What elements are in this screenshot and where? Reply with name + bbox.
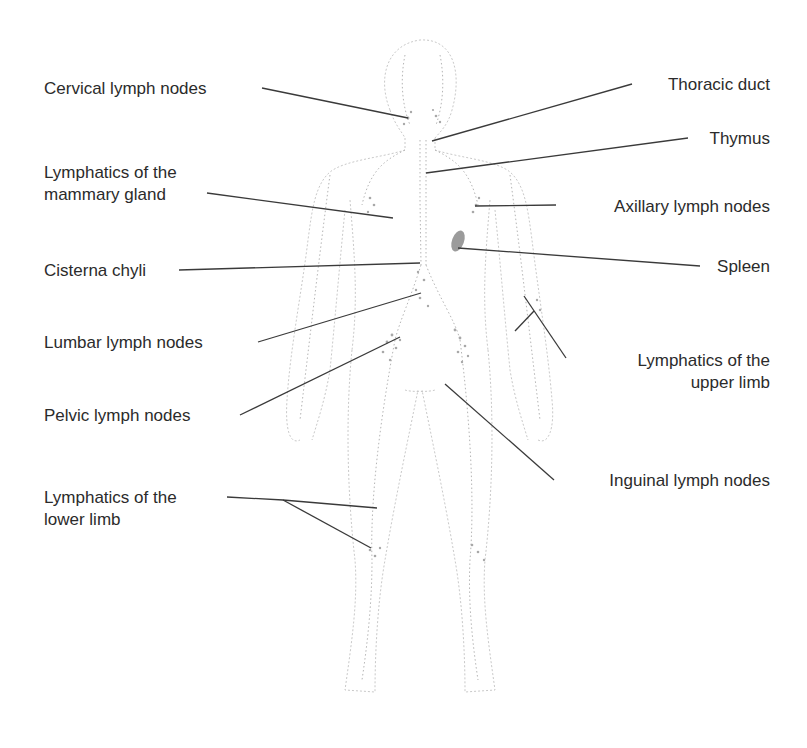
label-inguinal-lymph-nodes: Inguinal lymph nodes bbox=[609, 470, 770, 491]
label-lumbar-lymph-nodes: Lumbar lymph nodes bbox=[44, 332, 203, 353]
leader-lumbar bbox=[258, 293, 421, 342]
body-figure bbox=[0, 0, 807, 748]
leader-axillary bbox=[475, 205, 556, 206]
leader-upper-limb-branch bbox=[515, 311, 534, 331]
label-upper-limb-line2: upper limb bbox=[691, 372, 770, 393]
label-mammary-line2: mammary gland bbox=[44, 184, 166, 205]
label-cervical-lymph-nodes: Cervical lymph nodes bbox=[44, 78, 207, 99]
label-thoracic-duct: Thoracic duct bbox=[668, 74, 770, 95]
leader-thymus bbox=[426, 138, 688, 173]
label-thymus: Thymus bbox=[710, 128, 770, 149]
lymphatic-system-diagram: Cervical lymph nodes Lymphatics of the m… bbox=[0, 0, 807, 748]
leader-mammary bbox=[207, 193, 393, 218]
label-cisterna-chyli: Cisterna chyli bbox=[44, 260, 146, 281]
label-lower-limb-line2: lower limb bbox=[44, 509, 121, 530]
label-lower-limb-line1: Lymphatics of the bbox=[44, 487, 177, 508]
label-pelvic-lymph-nodes: Pelvic lymph nodes bbox=[44, 405, 190, 426]
label-upper-limb-line1: Lymphatics of the bbox=[637, 350, 770, 371]
leader-pelvic bbox=[240, 337, 400, 415]
spleen-organ bbox=[449, 229, 468, 254]
leader-upper-limb bbox=[524, 296, 566, 358]
label-mammary-line1: Lymphatics of the bbox=[44, 162, 177, 183]
body-outline bbox=[287, 40, 553, 692]
leader-spleen bbox=[458, 248, 700, 266]
label-spleen: Spleen bbox=[717, 256, 770, 277]
leader-lower-limb-a bbox=[227, 497, 377, 508]
label-axillary-lymph-nodes: Axillary lymph nodes bbox=[614, 196, 770, 217]
leader-cervical bbox=[262, 88, 408, 118]
leader-cisterna bbox=[179, 263, 420, 270]
leader-thoracic bbox=[432, 84, 632, 141]
leader-lower-limb-b bbox=[283, 500, 371, 548]
